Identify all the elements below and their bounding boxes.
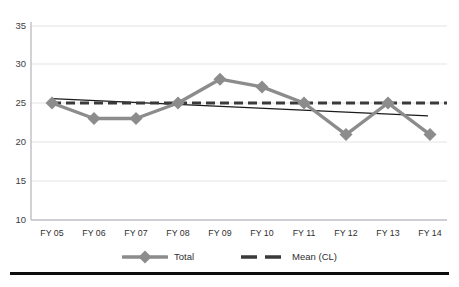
legend-swatch-mean-icon xyxy=(240,250,286,264)
legend-label-total: Total xyxy=(174,252,194,262)
chart-legend: Total Mean (CL) xyxy=(0,248,459,266)
y-tick-label-35: 35 xyxy=(2,21,26,31)
x-tick-label-fy11: FY 11 xyxy=(283,228,325,238)
x-tick-label-fy10: FY 10 xyxy=(241,228,283,238)
y-tick-label-15: 15 xyxy=(2,176,26,186)
x-tick-label-fy12: FY 12 xyxy=(325,228,367,238)
legend-swatch-total-icon xyxy=(122,250,168,264)
legend-entry-total[interactable]: Total xyxy=(122,250,194,264)
x-tick-label-fy06: FY 06 xyxy=(73,228,115,238)
legend-entry-mean-cl[interactable]: Mean (CL) xyxy=(240,250,337,264)
y-tick-label-20: 20 xyxy=(2,137,26,147)
line-chart: 35 30 25 20 15 10 FY 05 FY 06 FY 07 FY 0… xyxy=(0,0,459,287)
plot-area xyxy=(0,0,459,287)
x-tick-label-fy14: FY 14 xyxy=(409,228,451,238)
y-tick-label-30: 30 xyxy=(2,59,26,69)
x-tick-label-fy08: FY 08 xyxy=(157,228,199,238)
y-tick-label-25: 25 xyxy=(2,98,26,108)
x-tick-label-fy05: FY 05 xyxy=(31,228,73,238)
bottom-divider-rule xyxy=(10,272,449,275)
y-tick-label-10: 10 xyxy=(2,215,26,225)
x-tick-label-fy09: FY 09 xyxy=(199,228,241,238)
x-tick-label-fy07: FY 07 xyxy=(115,228,157,238)
x-tick-label-fy13: FY 13 xyxy=(367,228,409,238)
legend-label-mean-cl: Mean (CL) xyxy=(292,252,337,262)
